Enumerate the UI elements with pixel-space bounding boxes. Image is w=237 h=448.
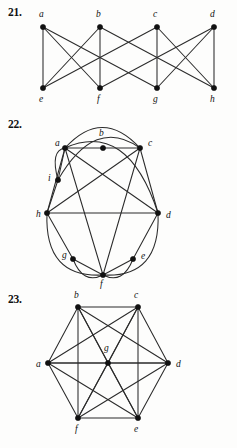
vertex-label-a: a — [39, 9, 44, 19]
graph-vertex-c — [154, 24, 159, 29]
graph-vertex-d — [155, 210, 160, 215]
graph-arc-edge — [103, 213, 158, 275]
vertex-label-h: h — [36, 209, 41, 219]
graph-edge — [133, 213, 158, 259]
vertex-label-g: g — [153, 94, 158, 104]
graph-edge — [48, 307, 78, 363]
graph-vertex-e — [135, 415, 140, 420]
problem-22: 22. abcdefghi — [0, 112, 237, 287]
vertex-label-c: c — [134, 290, 139, 300]
exercise-page: 21. abcdefgh 22. abcdefghi 23. abcdefg — [0, 0, 237, 448]
vertex-label-a: a — [55, 138, 60, 148]
vertex-label-c: c — [153, 9, 158, 19]
graph-vertex-d — [211, 24, 216, 29]
vertex-label-b: b — [99, 128, 104, 138]
graph-arc-edge — [58, 137, 140, 180]
vertex-label-d: d — [210, 9, 215, 19]
graph-figure-22: abcdefghi — [0, 112, 237, 287]
vertex-label-e: e — [134, 424, 138, 434]
graph-edge — [48, 363, 78, 418]
vertex-label-g: g — [104, 343, 109, 353]
graph-vertex-a — [62, 145, 67, 150]
graph-edge — [47, 213, 73, 259]
vertex-label-c: c — [148, 138, 153, 148]
graph-edge — [78, 307, 108, 363]
graph-vertex-c — [137, 145, 142, 150]
graph-svg-21: abcdefgh — [0, 0, 237, 112]
vertex-label-d: d — [166, 210, 171, 220]
graph-vertex-b — [100, 145, 105, 150]
vertex-label-a: a — [36, 359, 41, 369]
graph-edge — [138, 307, 168, 363]
graph-vertex-c — [135, 304, 140, 309]
graph-svg-23: abcdefg — [0, 287, 237, 448]
graph-vertex-h — [211, 85, 216, 90]
graph-vertex-h — [44, 210, 49, 215]
graph-vertex-a — [45, 360, 50, 365]
vertex-label-b: b — [74, 290, 79, 300]
graph-vertex-g — [105, 360, 110, 365]
graph-figure-23: abcdefg — [0, 287, 237, 448]
graph-vertex-g — [154, 85, 159, 90]
graph-vertex-e — [40, 85, 45, 90]
vertex-label-e: e — [141, 251, 145, 261]
graph-edge — [108, 363, 138, 418]
vertex-label-i: i — [48, 173, 51, 183]
graph-vertex-a — [40, 24, 45, 29]
graph-vertex-g — [70, 256, 75, 261]
graph-vertex-i — [55, 177, 60, 182]
graph-vertex-d — [165, 360, 170, 365]
graph-edge — [78, 363, 108, 418]
graph-edge — [108, 307, 138, 363]
graph-vertex-b — [75, 304, 80, 309]
graph-svg-22: abcdefghi — [0, 112, 237, 287]
vertex-label-f: f — [97, 94, 101, 104]
vertex-label-f: f — [75, 424, 79, 434]
graph-edge — [138, 363, 168, 418]
vertex-label-e: e — [39, 94, 43, 104]
graph-arc-edge — [47, 213, 103, 275]
vertex-label-h: h — [210, 94, 215, 104]
graph-figure-21: abcdefgh — [0, 0, 237, 112]
graph-edge — [140, 148, 158, 213]
graph-edge — [47, 148, 140, 213]
vertex-label-d: d — [176, 359, 181, 369]
graph-vertex-e — [130, 256, 135, 261]
vertex-label-g: g — [62, 250, 67, 260]
vertex-label-b: b — [96, 9, 101, 19]
problem-21: 21. abcdefgh — [0, 0, 237, 112]
graph-vertex-f — [97, 85, 102, 90]
graph-vertex-f — [75, 415, 80, 420]
graph-vertex-f — [100, 272, 105, 277]
problem-23: 23. abcdefg — [0, 287, 237, 448]
graph-vertex-b — [97, 24, 102, 29]
